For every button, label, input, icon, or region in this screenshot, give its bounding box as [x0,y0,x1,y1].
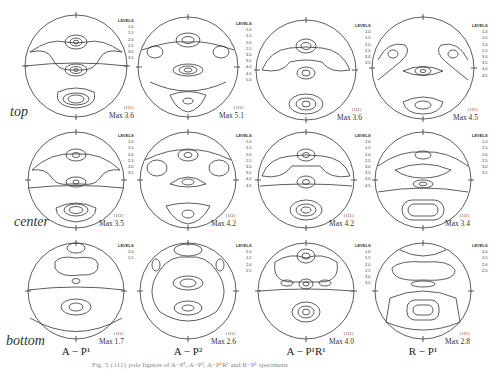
level: 3.5 [355,280,371,286]
row-label-center: center [14,214,49,230]
max-value: Max 3.5 [99,219,124,228]
max-label-center-ap1r1: {111}Max 4.2 [314,212,354,228]
max-value: Max 4.5 [453,113,478,122]
max-value: Max 4.2 [329,219,354,228]
max-label-center-ap1: {111}Max 3.5 [84,212,124,228]
legend-bottom-ap2: LEVELS 1.0 1.5 2.0 2.5 [236,243,252,274]
pole-figure-bottom-ap2 [137,240,239,342]
pole-figure-bottom-ap1 [25,240,127,342]
level: 2.5 [236,268,252,274]
max-label-top-ap1: {111}Max 3.6 [94,104,134,120]
legend-top-rp1: LEVELS 1.0 1.5 2.0 2.5 3.0 3.5 4.0 4.5 [472,23,488,79]
level: 3.5 [118,170,134,176]
legend-center-rp1: LEVELS 1.0 1.5 2.0 2.5 3.0 3.5 [472,133,488,176]
level: 4.5 [236,183,252,189]
max-label-bottom-ap1r1: {111}Max 4.0 [314,330,354,346]
max-value: Max 3.6 [109,111,134,120]
legend-top-ap1: LEVELS 1.0 1.5 2.0 2.5 3.0 3.5 [118,18,134,61]
legend-center-ap2: LEVELS 1.0 1.5 2.0 2.5 3.0 3.5 4.0 4.5 [236,133,252,189]
max-value: Max 5.1 [219,111,244,120]
column-label-ap1: A − P¹ [36,345,116,357]
legend-bottom-ap1r1: LEVELS 1.0 1.5 2.0 2.5 3.0 3.5 [355,243,371,286]
max-value: Max 3.6 [337,113,362,122]
level: 4.5 [472,73,488,79]
column-label-ap2: A − P² [148,345,228,357]
level: 3.5 [118,55,134,61]
pole-figure-bottom-rp1 [372,240,474,342]
max-value: Max 4.2 [211,219,236,228]
level: 4.5 [355,183,371,189]
legend-center-ap1: LEVELS 1.0 1.5 2.0 2.5 3.0 3.5 [118,133,134,176]
max-value: Max 3.4 [445,219,470,228]
row-label-top: top [10,104,28,120]
max-label-bottom-ap1: {111}Max 1.7 [84,330,124,346]
level: 5.0 [236,77,252,83]
max-label-top-rp1: {111}Max 4.5 [438,106,478,122]
figure-caption: Fig. 5 {111} pole figures of A−P¹, A−P²,… [92,361,288,369]
legend-bottom-rp1: LEVELS 1.0 1.5 2.0 2.5 [472,243,488,274]
legend-bottom-ap1: LEVELS 1.0 1.5 [118,243,134,262]
column-label-ap1r1: A − P¹R¹ [266,345,346,357]
max-label-bottom-ap2: {111}Max 2.6 [196,330,236,346]
max-label-top-ap1r1: {111}Max 3.6 [322,106,362,122]
level: 3.5 [355,60,371,66]
level: 2.5 [472,268,488,274]
legend-top-ap1r1: LEVELS 1.0 1.5 2.0 2.5 3.0 3.5 [355,23,371,66]
column-label-rp1: R − P¹ [383,345,463,357]
legend-top-ap2: LEVELS 1.0 1.5 2.0 2.5 3.0 3.5 4.0 4.5 5… [236,21,252,83]
level: 3.5 [472,170,488,176]
max-label-top-ap2: {111}Max 5.1 [204,104,244,120]
max-label-center-rp1: {111}Max 3.4 [430,212,470,228]
level: 1.5 [118,255,134,261]
pole-figure-bottom-ap1r1 [255,240,357,342]
max-label-center-ap2: {111}Max 4.2 [196,212,236,228]
max-label-bottom-rp1: {111}Max 2.8 [430,330,470,346]
legend-center-ap1r1: LEVELS 1.0 1.5 2.0 2.5 3.0 3.5 4.0 4.5 [355,133,371,189]
